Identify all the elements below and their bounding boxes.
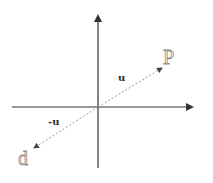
point-p-label: P [163,47,174,67]
vector-u-label: u [118,73,125,83]
point-d-label: d [18,148,28,168]
vector-neg-u-label: -u [48,117,59,127]
vector-neg-u [34,107,98,148]
vector-u [98,68,162,107]
coordinate-diagram [0,0,213,183]
